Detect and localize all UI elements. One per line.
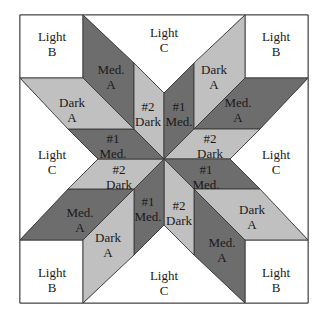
outer-right-upper-label-line1: Med. <box>224 95 251 110</box>
inner-top-left-label-line1: #2 <box>142 99 155 114</box>
corner-top-left-label-line2: B <box>48 44 57 59</box>
outer-left-upper-label-line1: Dark <box>59 95 85 110</box>
outer-bottom-right-label-line1: Med. <box>208 235 235 250</box>
inner-top-left-label-line2: Dark <box>135 114 161 129</box>
corner-bottom-left-label-line2: B <box>48 280 57 295</box>
inner-left-lower-label-line2: Dark <box>106 177 132 192</box>
triangle-left-label-line1: Light <box>38 147 67 162</box>
outer-top-right-label-line1: Dark <box>201 62 227 77</box>
inner-bottom-right-label-line1: #2 <box>173 198 186 213</box>
inner-right-upper-label-line2: Dark <box>197 146 223 161</box>
inner-right-upper-label-line1: #2 <box>204 131 217 146</box>
triangle-top-label-line2: C <box>160 40 169 55</box>
outer-bottom-left-label-line1: Dark <box>95 230 121 245</box>
triangle-bottom-label-line1: Light <box>150 268 179 283</box>
triangle-right-label-line2: C <box>272 162 281 177</box>
outer-right-upper-label-line2: A <box>233 110 243 125</box>
outer-top-left-label-line1: Med. <box>97 62 124 77</box>
inner-right-lower-label-line1: #1 <box>200 162 213 177</box>
inner-bottom-left-label-line2: Med. <box>134 209 161 224</box>
triangle-right-label-line1: Light <box>262 147 291 162</box>
triangle-bottom-label-line2: C <box>160 283 169 298</box>
outer-left-upper-label-line2: A <box>67 110 77 125</box>
triangle-left-label-line2: C <box>48 162 57 177</box>
corner-bottom-right-label-line2: B <box>272 280 281 295</box>
outer-top-right-label-line2: A <box>209 77 219 92</box>
inner-top-right-label-line1: #1 <box>173 99 186 114</box>
corner-bottom-left-label-line1: Light <box>38 265 67 280</box>
outer-left-lower-label-line1: Med. <box>66 205 93 220</box>
outer-bottom-right-label-line2: A <box>217 250 227 265</box>
outer-left-lower-label-line2: A <box>75 220 85 235</box>
inner-left-upper-label-line2: Med. <box>99 146 126 161</box>
inner-right-lower-label-line2: Med. <box>192 177 219 192</box>
inner-left-upper-label-line1: #1 <box>107 131 120 146</box>
triangle-top-label-line1: Light <box>150 25 179 40</box>
inner-bottom-right-label-line2: Dark <box>166 213 192 228</box>
inner-left-lower-label-line1: #2 <box>113 162 126 177</box>
quilt-block-diagram: LightBLightBLightBLightBLightCLightCLigh… <box>0 0 331 325</box>
corner-top-left-label-line1: Light <box>38 29 67 44</box>
outer-bottom-left-label-line2: A <box>103 245 113 260</box>
outer-right-lower-label-line2: A <box>247 217 257 232</box>
corner-bottom-right-label-line1: Light <box>262 265 291 280</box>
inner-top-right-label-line2: Med. <box>165 114 192 129</box>
outer-top-left-label-line2: A <box>106 77 116 92</box>
corner-top-right-label-line2: B <box>272 44 281 59</box>
outer-right-lower-label-line1: Dark <box>239 202 265 217</box>
corner-top-right-label-line1: Light <box>262 29 291 44</box>
inner-bottom-left-label-line1: #1 <box>142 194 155 209</box>
